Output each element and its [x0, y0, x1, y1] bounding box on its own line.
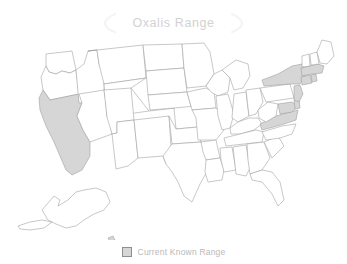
- legend-swatch-current-known-range: [122, 247, 132, 257]
- state-rhode-island[interactable]: [311, 74, 317, 82]
- state-connecticut[interactable]: [301, 75, 312, 85]
- oxalis-range-map-page: Oxalis Range: [0, 0, 347, 264]
- page-title-text: Oxalis Range: [132, 17, 214, 30]
- state-new-york[interactable]: [262, 64, 306, 86]
- state-washington[interactable]: [46, 51, 76, 74]
- state-indiana[interactable]: [232, 92, 249, 122]
- state-hawaii-kauai[interactable]: [108, 236, 115, 240]
- map-legend: Current Known Range: [0, 244, 347, 260]
- state-florida[interactable]: [250, 170, 284, 206]
- state-texas[interactable]: [163, 142, 208, 202]
- state-alaska-aleutians[interactable]: [18, 220, 52, 230]
- us-map-svg: [0, 30, 347, 240]
- state-vermont[interactable]: [302, 54, 310, 67]
- legend-label-current-known-range: Current Known Range: [138, 248, 226, 257]
- state-pennsylvania[interactable]: [260, 84, 294, 102]
- state-maine[interactable]: [317, 40, 334, 64]
- state-north-dakota[interactable]: [143, 44, 184, 71]
- state-south-dakota[interactable]: [146, 68, 187, 95]
- state-new-jersey[interactable]: [294, 85, 303, 102]
- us-map: [0, 30, 347, 240]
